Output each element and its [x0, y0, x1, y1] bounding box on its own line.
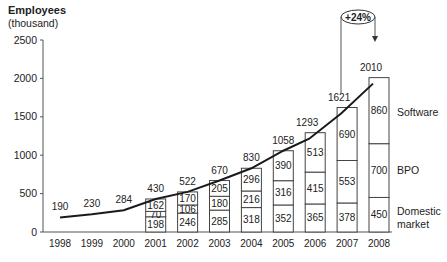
segment-value: 378 [339, 212, 356, 223]
x-tick-label: 2004 [240, 238, 263, 249]
x-tick-label: 2007 [336, 238, 359, 249]
legend-domestic-line2: market [397, 218, 429, 230]
segment-value: 450 [371, 209, 388, 220]
total-value: 190 [52, 201, 69, 212]
total-value: 284 [115, 194, 132, 205]
legend-bpo: BPO [397, 164, 419, 176]
segment-value: 690 [339, 129, 356, 140]
x-tick-label: 2001 [145, 238, 168, 249]
segment-value: 216 [243, 194, 260, 205]
segment-value: 316 [275, 187, 292, 198]
segment-value: 318 [243, 214, 260, 225]
x-tick-label: 1999 [81, 238, 104, 249]
segment-value: 860 [371, 105, 388, 116]
x-axis: 1998199920002001200220032004200520062007… [43, 232, 392, 249]
x-tick-label: 2000 [113, 238, 136, 249]
legend-domestic-line1: Domestic [397, 205, 441, 217]
y-axis-unit: (thousand) [8, 17, 58, 29]
y-axis-title: Employees [8, 4, 66, 16]
total-value: 670 [211, 165, 228, 176]
x-tick-label: 2006 [304, 238, 327, 249]
segment-value: 513 [307, 147, 324, 158]
legend: Software BPO Domestic market [397, 106, 441, 230]
segment-value: 246 [179, 217, 196, 228]
segment-value: 285 [211, 216, 228, 227]
segment-value: 180 [211, 198, 228, 209]
total-value: 2010 [360, 62, 383, 73]
employees-chart: Employees (thousand) 0500100015002000250… [0, 0, 447, 262]
x-tick-label: 2002 [176, 238, 199, 249]
segment-value: 352 [275, 213, 292, 224]
segment-value: 700 [371, 165, 388, 176]
total-value: 430 [147, 183, 164, 194]
segment-value: 390 [275, 160, 292, 171]
total-value: 1621 [328, 92, 351, 103]
segment-value: 365 [307, 212, 324, 223]
y-tick-label: 1500 [14, 110, 38, 122]
y-tick-label: 1000 [14, 149, 38, 161]
total-value: 230 [84, 198, 101, 209]
segment-value: 170 [179, 193, 196, 204]
chart-canvas: Employees (thousand) 0500100015002000250… [0, 0, 447, 262]
y-tick-label: 0 [31, 226, 37, 238]
total-value: 1058 [272, 135, 295, 146]
x-tick-label: 2003 [208, 238, 231, 249]
segment-value: 415 [307, 183, 324, 194]
x-tick-label: 1998 [49, 238, 72, 249]
y-tick-label: 2500 [14, 34, 38, 46]
growth-label: +24% [345, 12, 371, 23]
segment-value: 296 [243, 174, 260, 185]
segment-value: 205 [211, 183, 228, 194]
x-tick-label: 2005 [272, 238, 295, 249]
segment-value: 198 [147, 219, 164, 230]
total-value: 522 [179, 176, 196, 187]
y-tick-label: 500 [19, 187, 37, 199]
y-axis: 05001000150020002500 [14, 34, 43, 238]
total-value: 830 [243, 152, 260, 163]
legend-software: Software [397, 106, 439, 118]
stacked-bars: 1987016224610617028518020531821629635231… [146, 78, 389, 232]
segment-value: 553 [339, 176, 356, 187]
y-tick-label: 2000 [14, 72, 38, 84]
x-tick-label: 2008 [368, 238, 391, 249]
total-value: 1293 [296, 117, 319, 128]
